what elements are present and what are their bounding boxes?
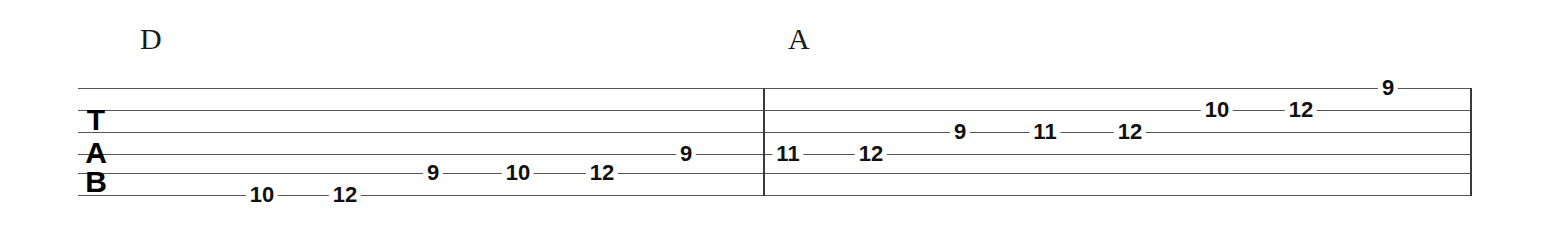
fret-number: 9 bbox=[423, 162, 443, 184]
tab-clef-letter-t: T bbox=[87, 105, 105, 135]
string-line-1 bbox=[78, 88, 1470, 89]
fret-number: 9 bbox=[676, 143, 696, 165]
chord-symbol-d: D bbox=[140, 24, 162, 54]
fret-number: 11 bbox=[1029, 121, 1060, 143]
string-line-5 bbox=[78, 173, 1470, 174]
fret-number: 12 bbox=[586, 162, 618, 184]
fret-number: 10 bbox=[1201, 99, 1233, 121]
tab-clef-letter-b: B bbox=[85, 167, 107, 197]
string-line-2 bbox=[78, 110, 1470, 111]
string-line-3 bbox=[78, 132, 1470, 133]
fret-number: 9 bbox=[950, 121, 970, 143]
fret-number: 10 bbox=[502, 162, 534, 184]
fret-number: 9 bbox=[1378, 77, 1398, 99]
chord-symbol-a: A bbox=[788, 24, 810, 54]
fret-number: 12 bbox=[329, 184, 361, 206]
measure-divider bbox=[763, 88, 765, 196]
fret-number: 11 bbox=[772, 143, 803, 165]
tab-clef-letter-a: A bbox=[85, 138, 107, 168]
end-barline bbox=[1470, 88, 1472, 196]
fret-number: 12 bbox=[855, 143, 887, 165]
fret-number: 10 bbox=[246, 184, 278, 206]
string-line-6 bbox=[78, 195, 1470, 196]
fret-number: 12 bbox=[1114, 121, 1146, 143]
fret-number: 12 bbox=[1285, 99, 1317, 121]
tablature-sheet: DA TAB 101291012911129111210129 bbox=[0, 0, 1543, 236]
